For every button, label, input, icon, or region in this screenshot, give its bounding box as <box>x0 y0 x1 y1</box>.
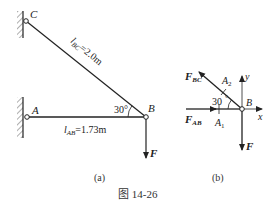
length-label-bc: lBC=2.0m <box>67 35 105 69</box>
label-c: C <box>30 8 38 20</box>
svg-text:30: 30 <box>212 96 222 107</box>
load-label-f: F <box>149 147 158 159</box>
load-label-f-fbd: F <box>245 140 254 152</box>
pin-a <box>25 115 30 120</box>
wall-support-c <box>17 11 23 38</box>
label-a: A <box>31 104 39 116</box>
angle-arc-b <box>228 100 231 109</box>
label-b: B <box>148 102 155 114</box>
axis-label-x: x <box>257 111 263 122</box>
panel-b: FBC FAB A2 A1 30 ° B x y F (b) <box>184 70 263 184</box>
wall-support-a <box>17 97 23 138</box>
angle-label-a: 30° <box>114 104 128 115</box>
angle-arc-a <box>128 106 132 117</box>
axis-label-y: y <box>244 71 250 82</box>
panel-label-a: (a) <box>94 172 105 184</box>
panel-label-b: (b) <box>212 172 224 184</box>
svg-text:lBC=2.0m: lBC=2.0m <box>67 35 105 69</box>
section-label-a2: A2 <box>221 75 232 88</box>
angle-label-b: 30 ° <box>212 94 228 107</box>
pin-b <box>144 115 149 120</box>
pin-b-fbd <box>240 107 245 112</box>
force-label-f-ab: FAB <box>184 113 202 127</box>
section-label-a1: A1 <box>214 117 225 130</box>
figure-caption: 图 14-26 <box>118 188 158 200</box>
panel-a: C A B lBC=2.0m lAB=1.73m 30° F (a) <box>17 8 158 184</box>
bar-bc <box>26 21 146 117</box>
svg-text:°: ° <box>225 94 228 103</box>
pin-c <box>24 19 29 24</box>
figure-14-26: C A B lBC=2.0m lAB=1.73m 30° F (a) <box>0 0 276 203</box>
label-b-fbd: B <box>246 97 252 108</box>
length-label-ab: lAB=1.73m <box>64 124 106 137</box>
